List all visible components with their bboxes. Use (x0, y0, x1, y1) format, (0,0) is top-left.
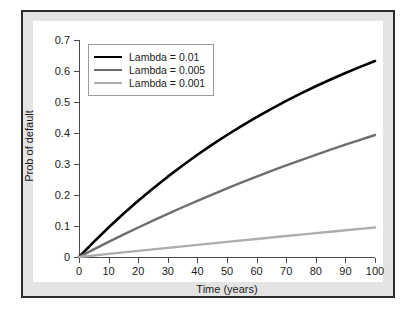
figure-outer-frame (21, 10, 395, 298)
figure-inner-panel (33, 21, 383, 282)
